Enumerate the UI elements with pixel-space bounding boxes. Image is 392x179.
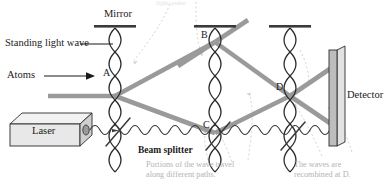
interferometer-illustration bbox=[0, 0, 392, 179]
atom-beam-past-b bbox=[215, 20, 248, 42]
mirror-bar-1 bbox=[94, 25, 136, 28]
atoms-label: Atoms bbox=[7, 70, 35, 81]
atoms-arrow bbox=[44, 72, 95, 80]
mirror-label: Mirror bbox=[104, 9, 132, 20]
mirror-bar-3 bbox=[269, 25, 311, 28]
point-b-label: B bbox=[201, 30, 208, 40]
caption-left-line-1: Portions of the wave travel bbox=[146, 160, 234, 170]
leader-arrowheads bbox=[133, 53, 332, 134]
laser-label: Laser bbox=[32, 126, 55, 137]
top-partial-caption: light-pulse bbox=[156, 0, 186, 7]
beam-splitter-label: Beam splitter bbox=[138, 146, 193, 156]
mirror-group bbox=[94, 25, 311, 28]
caption-left-line-2: along different paths. bbox=[146, 170, 216, 179]
standing-light-wave-label: Standing light wave bbox=[5, 38, 89, 49]
detector-slab bbox=[329, 46, 345, 146]
caption-right-line-1: The waves are bbox=[294, 160, 341, 170]
caption-right-line-2: recombined at D. bbox=[294, 170, 351, 179]
point-a-label: A bbox=[103, 68, 110, 78]
mirror-bar-2 bbox=[194, 25, 236, 28]
point-d-label: D bbox=[276, 82, 283, 92]
atom-beam-a-to-c bbox=[115, 96, 215, 133]
laser-light-wave bbox=[90, 126, 340, 135]
standing-light-wave-2 bbox=[209, 28, 221, 172]
detector-label: Detector bbox=[347, 90, 383, 101]
point-c-label: C bbox=[203, 120, 210, 130]
figure-canvas: light-pulse Mirror Standing light wave A… bbox=[0, 0, 392, 179]
